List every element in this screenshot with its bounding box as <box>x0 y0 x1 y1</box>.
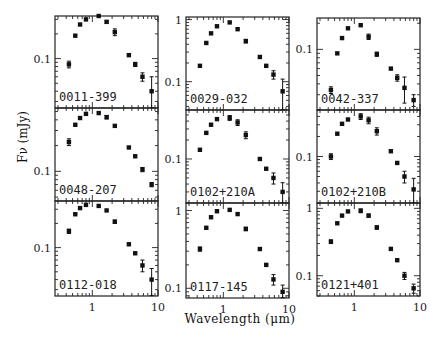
data-point <box>228 208 232 212</box>
data-point <box>133 62 137 66</box>
data-point <box>149 182 153 186</box>
data-point <box>73 123 77 127</box>
y-axis-label: Fν (mJy) <box>16 92 30 182</box>
y-tick-label: 0.1 <box>296 270 314 283</box>
data-point <box>97 111 101 115</box>
panel-label: 0117-145 <box>190 280 248 294</box>
panel-label: 0011-399 <box>59 90 117 104</box>
data-point <box>198 247 202 251</box>
data-point <box>402 274 406 278</box>
panel-0029-032: 10.10029-032 <box>165 14 290 110</box>
data-point <box>346 26 350 30</box>
data-point <box>340 122 344 126</box>
data-point <box>235 120 239 124</box>
data-point <box>97 14 101 18</box>
data-point <box>133 251 137 255</box>
data-point <box>67 140 71 144</box>
y-tick-label: 0.1 <box>296 151 314 164</box>
y-tick-label: 0.1 <box>165 282 183 295</box>
panel-0117-145: 10.10117-145110 <box>165 203 297 316</box>
panel-label: 0029-032 <box>190 92 248 106</box>
panel-0112-018: 0.10112-018110 <box>34 201 166 314</box>
data-point <box>113 124 117 128</box>
data-point <box>389 247 393 251</box>
data-point <box>204 41 208 45</box>
data-point <box>84 17 88 21</box>
panel-label: 0121+401 <box>321 278 379 292</box>
data-point <box>244 39 248 43</box>
data-point <box>329 239 333 243</box>
data-point <box>335 51 339 55</box>
data-point <box>258 157 262 161</box>
data-point <box>244 133 248 137</box>
data-point <box>127 242 131 246</box>
data-point <box>244 227 248 231</box>
data-point <box>209 215 213 219</box>
data-point <box>140 75 144 79</box>
data-point <box>67 62 71 66</box>
panel-0048-207: 0.10048-207 <box>34 108 159 201</box>
data-point <box>73 212 77 216</box>
data-point <box>402 86 406 90</box>
data-point <box>78 206 82 210</box>
data-point <box>340 36 344 40</box>
data-point <box>395 161 399 165</box>
data-point <box>215 117 219 121</box>
data-point <box>104 20 108 24</box>
panel-0102+210A: 0.10102+210A <box>165 110 290 203</box>
data-point <box>67 229 71 233</box>
data-point <box>359 209 363 213</box>
y-tick-label: 0.1 <box>165 153 183 166</box>
y-tick-label: 0.1 <box>296 43 314 56</box>
data-point <box>402 174 406 178</box>
data-point <box>359 23 363 27</box>
data-point <box>264 64 268 68</box>
data-point <box>113 30 117 34</box>
data-point <box>335 221 339 225</box>
data-point <box>258 55 262 59</box>
y-tick-label: 0.1 <box>34 242 52 255</box>
x-axis-label: Wavelength (μm) <box>150 312 330 326</box>
data-point <box>264 263 268 267</box>
y-tick-label: 1 <box>306 202 313 215</box>
x-axis-label-text: Wavelength (μm) <box>184 312 295 326</box>
data-point <box>335 132 339 136</box>
data-point <box>204 226 208 230</box>
data-point <box>133 154 137 158</box>
data-point <box>73 33 77 37</box>
panel-0121+401: 10.10121+401110 <box>296 202 428 314</box>
data-point <box>235 27 239 31</box>
data-point <box>140 263 144 267</box>
data-point <box>375 129 379 133</box>
panel-label: 0102+210B <box>321 185 386 199</box>
data-point <box>228 116 232 120</box>
data-point <box>395 76 399 80</box>
data-point <box>209 31 213 35</box>
data-point <box>104 115 108 119</box>
y-tick-label: 1 <box>175 205 182 218</box>
y-axis-label-text: Fν (mJy) <box>16 111 30 163</box>
data-point <box>280 190 284 194</box>
data-point <box>375 225 379 229</box>
data-point <box>389 66 393 70</box>
panel-0011-399: 0.10011-399 <box>34 14 159 108</box>
data-point <box>280 89 284 93</box>
y-tick-label: 0.1 <box>34 53 52 66</box>
data-point <box>280 290 284 294</box>
data-point <box>84 112 88 116</box>
data-point <box>271 277 275 281</box>
data-point <box>235 212 239 216</box>
data-point <box>113 220 117 224</box>
data-point <box>228 20 232 24</box>
data-point <box>411 286 415 290</box>
data-point <box>215 24 219 28</box>
data-point <box>346 117 350 121</box>
panel-label: 0042-337 <box>321 92 379 106</box>
data-point <box>104 208 108 212</box>
data-point <box>366 213 370 217</box>
panel-0042-337: 0.10042-337 <box>296 18 421 110</box>
x-tick-label: 1 <box>89 301 96 314</box>
data-point <box>127 53 131 57</box>
data-point <box>215 209 219 213</box>
panel-label: 0102+210A <box>190 185 256 199</box>
